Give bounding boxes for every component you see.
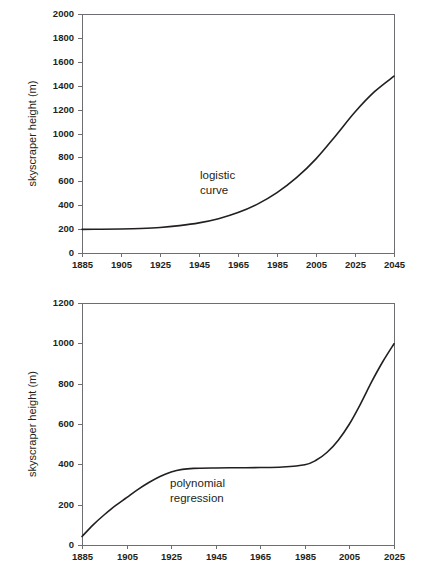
x-tick-label: 1905 <box>117 551 139 562</box>
annotation-line: curve <box>200 184 228 196</box>
y-tick-label: 0 <box>69 539 74 550</box>
data-curve-polynomial <box>82 344 394 537</box>
plot-frame <box>82 14 394 253</box>
chart-logistic: 0200400600800100012001400160018002000188… <box>0 0 425 291</box>
x-tick-label: 2045 <box>384 259 406 270</box>
x-tick-label: 1905 <box>111 259 133 270</box>
annotation-line: polynomial <box>170 477 225 489</box>
x-tick-label: 1985 <box>295 551 317 562</box>
y-tick-label: 1000 <box>53 337 74 348</box>
x-tick-label: 1965 <box>228 259 250 270</box>
y-axis: 0200400600800100012001400160018002000 <box>53 8 82 258</box>
y-tick-label: 1400 <box>53 80 74 91</box>
annotation-line: logistic <box>200 169 235 181</box>
y-tick-label: 1600 <box>53 56 74 67</box>
y-tick-label: 0 <box>69 247 74 258</box>
chart-polynomial: 0200400600800100012001885190519251945196… <box>0 291 425 582</box>
plot-frame <box>82 303 394 545</box>
plot-logistic: 0200400600800100012001400160018002000188… <box>0 0 425 291</box>
y-tick-label: 400 <box>58 458 74 469</box>
x-tick-label: 2025 <box>345 259 367 270</box>
x-tick-label: 1925 <box>161 551 183 562</box>
x-tick-label: 1985 <box>267 259 289 270</box>
curve-annotation: polynomialregression <box>170 477 225 504</box>
y-axis: 020040060080010001200 <box>53 297 82 550</box>
x-tick-label: 2005 <box>306 259 328 270</box>
y-tick-label: 1200 <box>53 104 74 115</box>
y-tick-label: 200 <box>58 223 74 234</box>
y-tick-label: 200 <box>58 499 74 510</box>
x-tick-label: 1925 <box>150 259 172 270</box>
y-tick-label: 2000 <box>53 8 74 19</box>
y-axis-title: skyscraper height (m) <box>26 81 38 187</box>
y-tick-label: 1800 <box>53 32 74 43</box>
x-tick-label: 1885 <box>72 551 94 562</box>
x-tick-label: 1945 <box>189 259 211 270</box>
y-tick-label: 600 <box>58 418 74 429</box>
x-tick-label: 2025 <box>384 551 406 562</box>
data-curve-logistic <box>82 76 394 229</box>
x-tick-label: 1885 <box>72 259 94 270</box>
y-tick-label: 800 <box>58 378 74 389</box>
x-tick-label: 2005 <box>339 551 361 562</box>
y-tick-label: 600 <box>58 175 74 186</box>
x-tick-label: 1945 <box>206 551 228 562</box>
x-axis: 188519051925194519651985200520252045 <box>72 253 406 270</box>
curve-annotation: logisticcurve <box>200 169 235 196</box>
y-tick-label: 400 <box>58 199 74 210</box>
y-tick-label: 800 <box>58 151 74 162</box>
y-tick-label: 1200 <box>53 297 74 308</box>
y-axis-title: skyscraper height (m) <box>26 371 38 477</box>
y-tick-label: 1000 <box>53 128 74 139</box>
x-tick-label: 1965 <box>250 551 272 562</box>
plot-polynomial: 0200400600800100012001885190519251945196… <box>0 291 425 582</box>
annotation-line: regression <box>170 492 224 504</box>
x-axis: 18851905192519451965198520052025 <box>72 545 406 562</box>
